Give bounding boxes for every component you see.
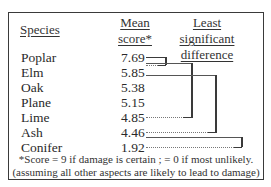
species-name: Poplar <box>21 50 56 65</box>
species-name: Plane <box>21 95 51 110</box>
header-mean-line2: score* <box>118 31 152 47</box>
species-name: Lime <box>21 110 50 125</box>
mean-score: 7.69 <box>121 50 145 65</box>
mean-score: 4.85 <box>121 110 145 125</box>
footnote-line2: (assuming all other aspects are likely t… <box>8 166 264 179</box>
mean-score: 5.85 <box>121 65 145 80</box>
mean-score: 5.15 <box>121 95 145 110</box>
header-mean-score: Mean score* <box>118 15 152 47</box>
header-species: Species <box>20 23 60 36</box>
footnote-line1: *Score = 9 if damage is certain ; = 0 if… <box>8 153 264 166</box>
mean-score: 5.38 <box>121 80 145 95</box>
header-lsd-line2: difference <box>164 47 250 63</box>
species-name: Elm <box>21 65 44 80</box>
species-name: Ash <box>21 125 43 140</box>
header-lsd: Least significant difference <box>164 15 250 63</box>
species-name: Oak <box>21 80 44 95</box>
mean-score: 4.46 <box>121 125 145 140</box>
header-lsd-line1: Least significant <box>164 15 250 47</box>
header-mean-line1: Mean <box>118 15 152 31</box>
